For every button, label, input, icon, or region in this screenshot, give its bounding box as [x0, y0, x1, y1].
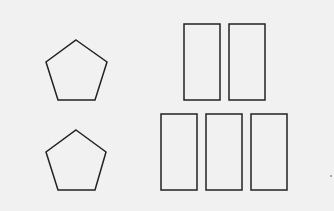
background — [0, 0, 334, 211]
shapes-diagram — [0, 0, 334, 211]
stray-dot — [330, 175, 332, 177]
